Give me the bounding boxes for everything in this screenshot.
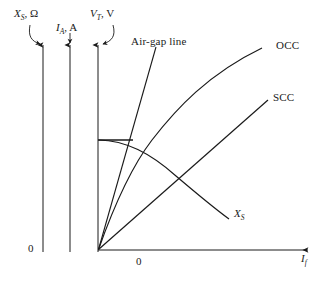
xs-label: XS (234, 208, 244, 219)
scc-curve (99, 100, 269, 250)
y-axis-label-vt-symbol: V (90, 7, 97, 19)
scc-label: SCC (273, 92, 294, 103)
y-axis-label-vt-unit: , V (101, 7, 114, 19)
left-origin-zero-label: 0 (28, 243, 34, 254)
figure-canvas: XS, Ω IA, A VT, V If 0 0 Air-gap line OC… (0, 0, 328, 284)
y-axis-label-xs-unit: , Ω (24, 7, 38, 19)
y-axis-label-xs-symbol: X (14, 7, 21, 19)
y-axis-label-xs: XS, Ω (14, 8, 38, 19)
y-axis-label-vt: VT, V (90, 8, 114, 19)
air-gap-line-label: Air-gap line (131, 36, 187, 47)
x-axis-zero-label: 0 (136, 256, 142, 267)
occ-curve (99, 48, 263, 250)
x-axis-label-if-subscript: f (305, 258, 307, 267)
x-axis-label-if: If (301, 253, 307, 264)
xs-label-subscript: S (241, 213, 245, 222)
y-axis-label-xs-subscript: S (21, 13, 25, 22)
y-axis-label-ia: IA, A (56, 22, 77, 33)
y-axis-label-ia-unit: , A (64, 21, 77, 33)
occ-label: OCC (276, 40, 299, 51)
xs-label-symbol: X (234, 207, 241, 219)
y-axis-label-ia-subscript: A (60, 27, 65, 36)
leader-line-vt-axis (103, 25, 114, 44)
y-axis-label-vt-subscript: T (97, 13, 101, 22)
air-gap-line-curve (99, 47, 157, 250)
leader-line-air-gap-label (134, 55, 142, 78)
leader-line-xs-axis (29, 25, 40, 44)
